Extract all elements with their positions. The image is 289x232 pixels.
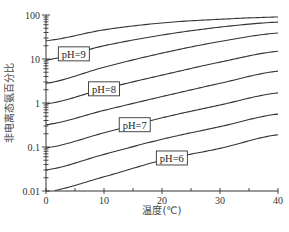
x-tick-label: 10 [99,195,109,206]
y-tick-label: 0.1 [28,142,41,153]
x-tick-label: 0 [44,195,49,206]
chart: 0.010.1110100 010203040 pH=9pH=8pH=7pH=6… [0,0,289,232]
curve-label-pH-9: pH=9 [58,47,89,61]
label-text: pH=9 [62,49,86,60]
curve-pH-7_5 [46,71,278,125]
curve-label-pH-7: pH=7 [119,118,150,132]
y-tick-label: 100 [25,10,40,21]
x-tick-label: 40 [273,195,283,206]
label-text: pH=7 [123,120,147,131]
y-axis-title: 非电离态氨百分比 [3,63,15,143]
y-tick-label: 1 [35,98,40,109]
x-tick-label: 30 [215,195,225,206]
y-tick-label: 0.01 [23,186,41,197]
y-tick-label: 10 [30,54,40,65]
label-text: pH=6 [160,153,184,164]
x-axis-title: 温度(℃) [142,204,181,216]
curve-label-pH-8: pH=8 [89,82,120,96]
label-text: pH=8 [92,84,116,95]
curve-label-pH-6: pH=6 [156,151,187,165]
